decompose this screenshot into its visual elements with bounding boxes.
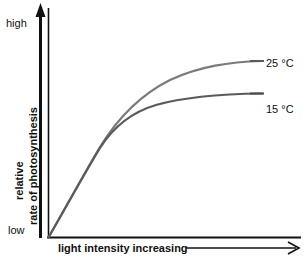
series-label-15c: 15 °C	[266, 103, 294, 115]
x-axis-direction-arrow	[186, 242, 299, 254]
y-axis-title-line-1: relative	[13, 161, 25, 200]
x-axis-title: light intensity increasing	[58, 242, 188, 254]
y-axis-title-line-2: rate of photosynthesis	[27, 107, 39, 225]
y-axis-title-group: relative rate of photosynthesis	[0, 0, 40, 257]
series-label-25c: 25 °C	[266, 57, 294, 69]
curve-25c	[49, 61, 263, 238]
chart-drawing-surface	[0, 0, 306, 257]
photosynthesis-light-response-chart: high low light intensity increasing 25 °…	[0, 0, 306, 257]
curve-15c	[49, 94, 263, 238]
